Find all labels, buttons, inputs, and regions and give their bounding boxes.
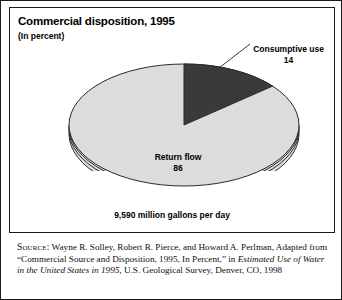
source-line-3: Percent,” in	[192, 254, 238, 264]
chart-panel: Commercial disposition, 1995 (In percent…	[9, 7, 335, 233]
chart-title: Commercial disposition, 1995	[18, 15, 175, 27]
source-note: Source: Wayne R. Solley, Robert R. Pierc…	[9, 241, 335, 277]
chart-footnote: 9,590 million gallons per day	[10, 210, 334, 220]
return-flow-label: Return flow	[122, 152, 234, 163]
callout-consumptive-use: Consumptive use 14	[253, 44, 324, 66]
pie-chart: Return flow 86	[68, 64, 300, 204]
chart-subtitle: (In percent)	[18, 31, 64, 41]
pie-label-return-flow: Return flow 86	[122, 152, 234, 174]
callout-label: Consumptive use	[253, 44, 324, 55]
source-line-4: U.S. Geological Survey, Denver, CO, 1998	[124, 265, 282, 275]
return-flow-value: 86	[122, 163, 234, 174]
source-line-1: Wayne R. Solley, Robert R. Pierce, and H…	[49, 242, 274, 252]
pie-svg	[68, 64, 300, 204]
source-label: Source:	[17, 241, 49, 252]
figure-container: Commercial disposition, 1995 (In percent…	[0, 0, 342, 300]
